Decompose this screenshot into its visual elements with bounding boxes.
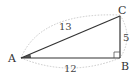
triangle-diagram: A B C 13 12 5: [0, 0, 138, 75]
side-label-ab: 12: [64, 63, 77, 74]
side-label-bc: 5: [123, 32, 129, 43]
side-label-ac: 13: [59, 21, 72, 32]
vertex-label-a: A: [7, 52, 17, 65]
right-angle-mark-b: [114, 52, 120, 58]
vertex-label-b: B: [121, 60, 129, 73]
vertex-label-c: C: [118, 4, 126, 17]
